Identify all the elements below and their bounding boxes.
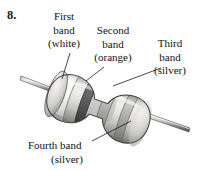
callout-fourth-band-line-2: (silver)	[28, 153, 100, 167]
callout-third-band-line-1: Third	[145, 37, 195, 51]
callout-third-band-line-2: band	[145, 51, 195, 65]
callout-first-band: First band (white)	[42, 10, 86, 51]
callout-first-band-line-2: band	[42, 24, 86, 38]
callout-third-band-line-3: (silver)	[145, 64, 195, 78]
leader-line-second-band	[86, 67, 104, 81]
callout-third-band: Third band (silver)	[145, 37, 195, 78]
callout-fourth-band-line-1: Fourth band	[28, 139, 100, 153]
callout-second-band: Second band (orange)	[86, 24, 140, 65]
callout-first-band-line-1: First	[42, 10, 86, 24]
callout-first-band-line-3: (white)	[42, 37, 86, 51]
figure-container: 8.	[0, 0, 198, 171]
callout-second-band-line-3: (orange)	[86, 51, 140, 65]
callout-second-band-line-2: band	[86, 38, 140, 52]
callout-second-band-line-1: Second	[86, 24, 140, 38]
callout-fourth-band: Fourth band (silver)	[28, 139, 100, 166]
